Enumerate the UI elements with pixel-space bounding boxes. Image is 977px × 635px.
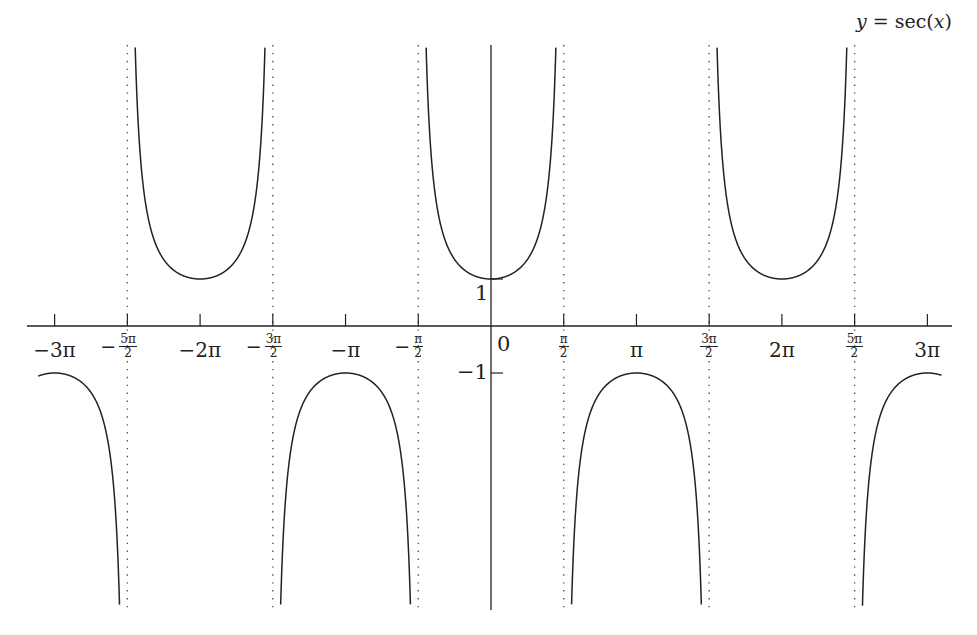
x-tick-label: −2π: [179, 340, 222, 360]
title-lhs: y: [856, 10, 867, 32]
title-fn: sec(: [895, 10, 934, 32]
sec-branch: [38, 373, 119, 605]
x-tick-label: π2: [559, 333, 569, 359]
sec-branch: [135, 48, 265, 279]
x-tick-label: π: [630, 340, 643, 360]
x-tick-label: 3π: [914, 340, 940, 360]
title-var: x: [934, 10, 945, 32]
y-tick-label: −1: [457, 362, 488, 383]
x-tick-label: −π2: [394, 333, 423, 359]
x-tick-label: −3π2: [246, 333, 282, 359]
sec-branch: [281, 373, 411, 604]
sec-branch: [717, 48, 847, 279]
x-tick-label: −3π: [33, 340, 76, 360]
sec-branch: [572, 373, 702, 604]
chart-title: y = sec(x): [856, 12, 952, 31]
title-eq: =: [867, 10, 895, 32]
x-tick-label: −5π2: [100, 333, 136, 359]
x-tick-label: 2π: [769, 340, 795, 360]
sec-plot: [0, 0, 977, 635]
x-tick-label: −π: [331, 340, 361, 360]
y-tick-label: 1: [475, 283, 488, 304]
title-close: ): [945, 10, 952, 32]
x-tick-label: 5π2: [846, 333, 864, 359]
x-tick-label: 0: [497, 334, 510, 355]
x-tick-label: 3π2: [700, 333, 718, 359]
sec-branch: [862, 373, 941, 606]
